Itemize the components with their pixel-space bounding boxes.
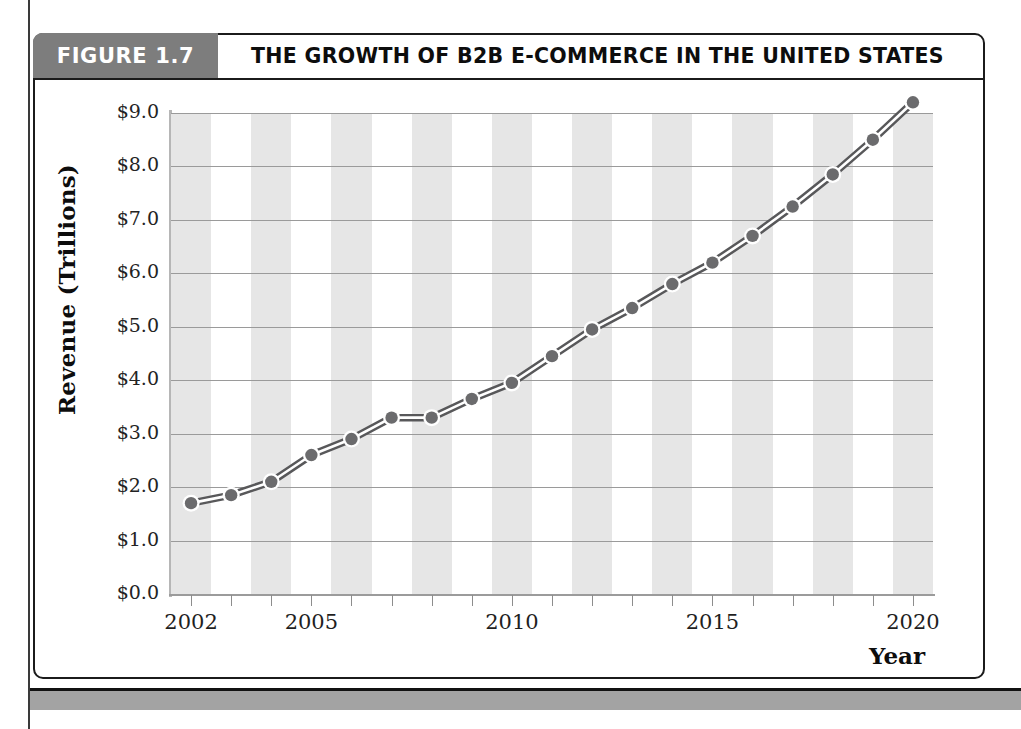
gridline	[171, 113, 933, 114]
gridline	[171, 220, 933, 221]
x-tick-mark	[793, 595, 794, 606]
gridline	[171, 273, 933, 274]
figure-header: FIGURE 1.7 THE GROWTH OF B2B E-COMMERCE …	[33, 33, 985, 78]
x-tick-mark	[672, 595, 673, 606]
x-tick-mark	[913, 595, 914, 606]
plot-band	[572, 113, 612, 594]
y-tick-label: $9.0	[89, 100, 159, 122]
x-tick-mark	[753, 595, 754, 606]
y-tick-label: $2.0	[89, 474, 159, 496]
x-axis-title: Year	[869, 642, 925, 669]
x-tick-label: 2002	[146, 610, 236, 634]
gridline	[171, 327, 933, 328]
gridline	[171, 487, 933, 488]
figure-number-label: FIGURE 1.7	[57, 44, 194, 68]
plot-band	[331, 113, 371, 594]
plot-band	[251, 113, 291, 594]
x-tick-mark	[191, 595, 192, 606]
footer-bar	[30, 691, 1021, 710]
y-tick-label: $8.0	[89, 153, 159, 175]
x-tick-mark	[311, 595, 312, 606]
x-tick-mark	[512, 595, 513, 606]
x-tick-mark	[472, 595, 473, 606]
x-tick-mark	[873, 595, 874, 606]
x-tick-mark	[592, 595, 593, 606]
x-tick-label: 2020	[868, 610, 958, 634]
y-tick-label: $3.0	[89, 421, 159, 443]
plot-band	[492, 113, 532, 594]
x-tick-mark	[351, 595, 352, 606]
data-point-marker: 2020: $9.20T	[907, 96, 919, 108]
plot-band	[732, 113, 772, 594]
figure-title-text: THE GROWTH OF B2B E-COMMERCE IN THE UNIT…	[251, 44, 952, 68]
x-tick-mark	[231, 595, 232, 606]
gridline	[171, 434, 933, 435]
plot-band	[412, 113, 452, 594]
data-point-halo	[904, 94, 921, 111]
plot-band	[813, 113, 853, 594]
y-tick-label: $4.0	[89, 367, 159, 389]
plot-band	[893, 113, 933, 594]
x-tick-mark	[833, 595, 834, 606]
y-tick-label: $6.0	[89, 260, 159, 282]
x-tick-mark	[712, 595, 713, 606]
plot-band	[652, 113, 692, 594]
plot-area	[171, 113, 933, 594]
y-tick-label: $7.0	[89, 207, 159, 229]
x-tick-label: 2015	[667, 610, 757, 634]
x-tick-label: 2010	[467, 610, 557, 634]
plot-band	[171, 113, 211, 594]
figure-number-badge: FIGURE 1.7	[33, 33, 218, 78]
figure-title-container: THE GROWTH OF B2B E-COMMERCE IN THE UNIT…	[218, 33, 985, 78]
gridline	[171, 166, 933, 167]
chart-body: Revenue (Trillions) $0.0$1.0$2.0$3.0$4.0…	[33, 80, 985, 679]
y-tick-label: $0.0	[89, 581, 159, 603]
x-tick-mark	[552, 595, 553, 606]
x-tick-mark	[632, 595, 633, 606]
x-tick-mark	[432, 595, 433, 606]
gridline	[171, 380, 933, 381]
x-tick-label: 2005	[266, 610, 356, 634]
y-tick-label: $5.0	[89, 314, 159, 336]
y-tick-label: $1.0	[89, 528, 159, 550]
gridline	[171, 541, 933, 542]
figure-page: FIGURE 1.7 THE GROWTH OF B2B E-COMMERCE …	[0, 0, 1021, 729]
x-tick-mark	[271, 595, 272, 606]
y-axis-title: Revenue (Trillions)	[53, 160, 80, 420]
page-edge-rule	[28, 0, 30, 729]
x-tick-mark	[392, 595, 393, 606]
